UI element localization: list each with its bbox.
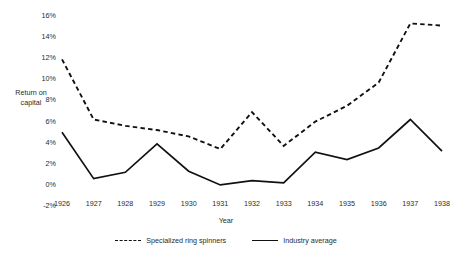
y-axis-tick-label: 10% — [30, 74, 56, 83]
legend-swatch-solid-icon — [252, 240, 278, 241]
y-axis-tick-label: 2% — [30, 158, 56, 167]
legend-label-specialized-ring-spinners: Specialized ring spinners — [146, 236, 226, 245]
y-axis-tick-label: 4% — [30, 137, 56, 146]
legend-item-specialized-ring-spinners: Specialized ring spinners — [115, 236, 226, 245]
y-axis-tick-label: 8% — [30, 95, 56, 104]
legend-swatch-dashed-icon — [115, 240, 141, 241]
plot-svg — [62, 15, 442, 205]
legend-item-industry-average: Industry average — [252, 236, 337, 245]
y-axis-tick-label: 14% — [30, 32, 56, 41]
x-axis-title: Year — [0, 216, 452, 225]
series-line-industry-average — [62, 120, 442, 185]
chart-legend: Specialized ring spinners Industry avera… — [0, 236, 452, 245]
plot-area — [62, 15, 442, 205]
y-axis-tick-label: 16% — [30, 11, 56, 20]
y-axis-tick-label: 0% — [30, 179, 56, 188]
return-on-capital-line-chart: Return on capital -2%0%2%4%6%8%10%12%14%… — [0, 0, 452, 261]
series-line-specialized-ring-spinners — [62, 23, 442, 149]
y-axis-tick-label: 12% — [30, 53, 56, 62]
y-axis-tick-label: 6% — [30, 116, 56, 125]
legend-label-industry-average: Industry average — [283, 236, 337, 245]
